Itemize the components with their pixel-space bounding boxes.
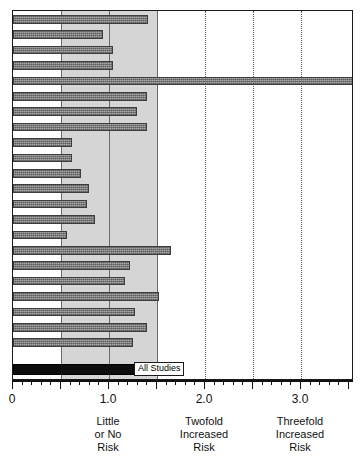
axis-tick-2p7 xyxy=(271,380,272,385)
study-bar xyxy=(13,107,137,116)
table-row xyxy=(13,92,352,101)
axis-tick-2p5 xyxy=(252,380,253,389)
study-bar xyxy=(13,277,125,286)
zone-label-0: Littleor NoRisk xyxy=(95,415,122,454)
axis-tick-3p2 xyxy=(319,380,320,385)
axis-tick-2p4 xyxy=(242,380,243,385)
axis-tick-0p8 xyxy=(89,380,90,385)
plot-area: All Studies xyxy=(13,11,352,379)
axis-line xyxy=(12,380,353,382)
all-studies-bar xyxy=(13,364,135,375)
axis-tick-3p5 xyxy=(348,380,349,389)
axis-tick-1p5 xyxy=(156,380,157,389)
axis-tick-0p6 xyxy=(70,380,71,385)
zone-label-line: Twofold xyxy=(180,415,228,428)
zone-label-line: Risk xyxy=(180,441,228,454)
axis-tick-1p6 xyxy=(166,380,167,385)
study-bar xyxy=(13,30,103,39)
zone-label-line: Increased xyxy=(180,428,228,441)
axis-tick-1 xyxy=(108,380,109,389)
axis-tick-1p2 xyxy=(127,380,128,385)
table-row xyxy=(13,308,352,317)
axis-tick-2p3 xyxy=(233,380,234,385)
study-bar xyxy=(13,246,171,255)
table-row xyxy=(13,107,352,116)
zone-label-2: ThreefoldIncreasedRisk xyxy=(276,415,324,454)
study-bar xyxy=(13,92,147,101)
study-bar xyxy=(13,169,81,178)
axis-tick-0p5 xyxy=(60,380,61,389)
axis-tick-3p1 xyxy=(310,380,311,385)
table-row xyxy=(13,338,352,347)
table-row xyxy=(13,323,352,332)
axis-tick-0p1 xyxy=(22,380,23,385)
zone-label-line: Risk xyxy=(276,441,324,454)
axis-tick-1p9 xyxy=(194,380,195,385)
study-bar xyxy=(13,77,353,86)
zone-label-line: Threefold xyxy=(276,415,324,428)
study-bar xyxy=(13,123,147,132)
table-row xyxy=(13,30,352,39)
axis-tick-1p3 xyxy=(137,380,138,385)
tick-label-0: 0 xyxy=(9,392,16,406)
zone-label-line: or No xyxy=(95,428,122,441)
axis-tick-0p9 xyxy=(98,380,99,385)
table-row xyxy=(13,277,352,286)
table-row xyxy=(13,123,352,132)
plot-frame: All Studies xyxy=(12,10,353,380)
table-row xyxy=(13,215,352,224)
study-bar xyxy=(13,61,113,70)
study-bar xyxy=(13,154,72,163)
table-row xyxy=(13,231,352,240)
table-row xyxy=(13,138,352,147)
zone-label-line: Increased xyxy=(276,428,324,441)
axis-tick-2p1 xyxy=(214,380,215,385)
zone-label-1: TwofoldIncreasedRisk xyxy=(180,415,228,454)
table-row xyxy=(13,61,352,70)
axis-tick-1p7 xyxy=(175,380,176,385)
axis-tick-0p4 xyxy=(50,380,51,385)
tick-label-3p0: 3.0 xyxy=(292,392,309,406)
axis-tick-3p4 xyxy=(338,380,339,385)
study-bar xyxy=(13,215,95,224)
axis-tick-1p1 xyxy=(118,380,119,385)
tick-label-2p0: 2.0 xyxy=(196,392,213,406)
axis-tick-0p7 xyxy=(79,380,80,385)
table-row xyxy=(13,292,352,301)
table-row xyxy=(13,200,352,209)
table-row xyxy=(13,77,352,86)
axis-tick-1p8 xyxy=(185,380,186,385)
axis-tick-2p8 xyxy=(281,380,282,385)
tick-label-1p0: 1.0 xyxy=(100,392,117,406)
table-row xyxy=(13,246,352,255)
chart-root: All Studies 01.02.03.0 Littleor NoRiskTw… xyxy=(0,0,362,460)
zone-label-line: Risk xyxy=(95,441,122,454)
table-row xyxy=(13,169,352,178)
table-row xyxy=(13,184,352,193)
study-bar xyxy=(13,323,147,332)
axis-tick-3 xyxy=(300,380,301,389)
table-row xyxy=(13,46,352,55)
study-bar xyxy=(13,184,89,193)
axis-tick-2p2 xyxy=(223,380,224,385)
zone-label-line: Little xyxy=(95,415,122,428)
study-bar xyxy=(13,46,113,55)
axis-tick-2p6 xyxy=(262,380,263,385)
axis-tick-2p9 xyxy=(290,380,291,385)
axis-tick-0p2 xyxy=(31,380,32,385)
study-bar xyxy=(13,200,87,209)
study-bar xyxy=(13,138,72,147)
axis-tick-0p3 xyxy=(41,380,42,385)
study-bar xyxy=(13,338,133,347)
table-row xyxy=(13,261,352,270)
study-bar xyxy=(13,292,159,301)
axis-tick-1p4 xyxy=(146,380,147,385)
axis-tick-2 xyxy=(204,380,205,389)
axis-tick-0 xyxy=(12,380,13,389)
table-row xyxy=(13,154,352,163)
study-bar xyxy=(13,15,148,24)
x-axis xyxy=(12,380,353,381)
table-row xyxy=(13,15,352,24)
all-studies-label: All Studies xyxy=(134,362,185,376)
study-bar xyxy=(13,231,67,240)
